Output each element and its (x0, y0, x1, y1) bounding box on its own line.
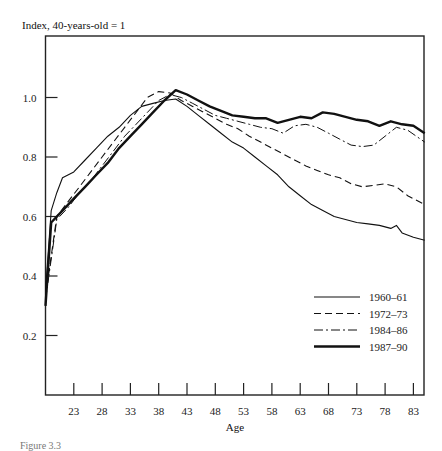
x-tick-label: 78 (380, 405, 392, 417)
y-tick-label: 1.0 (23, 92, 37, 104)
x-tick-label: 43 (182, 405, 194, 417)
figure-caption: Figure 3.3 (20, 440, 61, 451)
plot-frame (46, 36, 425, 395)
legend: 1960–611972–731984–861987–90 (314, 291, 408, 353)
x-tick-label: 48 (210, 405, 222, 417)
x-tick-label: 58 (266, 405, 278, 417)
x-tick-label: 68 (323, 405, 335, 417)
series-line-1984–86 (46, 95, 425, 300)
legend-label: 1960–61 (369, 291, 408, 303)
series-lines (46, 90, 425, 306)
y-tick-label: 0.2 (23, 330, 37, 342)
y-tick-label: 0.8 (23, 151, 37, 163)
x-tick-label: 23 (68, 405, 80, 417)
x-tick-label: 63 (295, 405, 307, 417)
plot-border (46, 36, 425, 395)
x-axis: 23283338434853586368737883 (68, 383, 419, 417)
x-tick-label: 28 (97, 405, 109, 417)
series-line-1987–90 (46, 90, 425, 306)
y-tick-label: 0.4 (23, 270, 37, 282)
x-tick-label: 53 (238, 405, 250, 417)
x-tick-label: 33 (125, 405, 137, 417)
legend-label: 1972–73 (369, 308, 408, 320)
legend-label: 1984–86 (369, 324, 408, 336)
x-tick-label: 83 (408, 405, 420, 417)
x-tick-label: 38 (153, 405, 165, 417)
y-axis: 0.20.40.60.81.0 (23, 92, 58, 342)
legend-label: 1987–90 (369, 341, 408, 353)
y-tick-label: 0.6 (23, 211, 37, 223)
series-line-1960–61 (46, 99, 425, 291)
x-tick-label: 73 (351, 405, 363, 417)
x-axis-title: Age (0, 421, 442, 433)
